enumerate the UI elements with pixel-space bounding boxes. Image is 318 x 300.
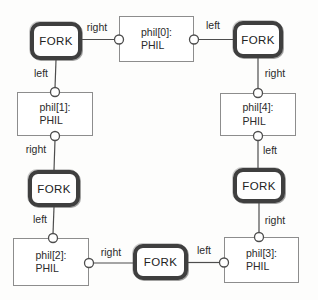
edge-label-tl-fork-to-phil0: right (87, 21, 107, 33)
edge-label-ml-fork-to-phil2: left (33, 213, 47, 225)
phil-instance-name: phil[1]: (40, 101, 71, 114)
fork-node-mid-left: FORK (28, 170, 80, 207)
edge-label-tl-fork-to-phil1: left (34, 67, 48, 79)
phil-process-type: PHIL (141, 39, 172, 52)
phil-instance-name: phil[4]: (243, 101, 274, 114)
phil-process-type: PHIL (246, 260, 277, 273)
fork-node-bottom: FORK (133, 244, 188, 280)
fork-node-label: FORK (241, 34, 275, 46)
edge-label-mr-fork-to-phil3: right (265, 214, 285, 226)
phil-node-4: phil[4]: PHIL (220, 93, 296, 136)
phil-process-type: PHIL (40, 114, 71, 127)
edge-label-phil4-to-mr-fork: left (263, 144, 277, 156)
phil-node-2: phil[2]: PHIL (13, 238, 89, 286)
phil-process-type: PHIL (36, 262, 67, 275)
edge-label-phil0-to-tr-fork: left (206, 19, 220, 31)
edge-label-phil1-to-ml-fork: right (26, 143, 46, 155)
fork-node-label: FORK (242, 180, 276, 192)
phil-instance-name: phil[3]: (246, 247, 277, 260)
connector-line (54, 140, 55, 170)
fork-node-top-left: FORK (30, 22, 82, 60)
fork-node-label: FORK (37, 183, 71, 195)
phil-node-1: phil[1]: PHIL (17, 92, 93, 136)
fork-node-label: FORK (144, 256, 178, 268)
phil-instance-name: phil[0]: (141, 26, 172, 39)
phil-node-0: phil[0]: PHIL (119, 16, 194, 62)
phil-process-type: PHIL (243, 115, 274, 128)
connector-line (53, 207, 54, 234)
fork-node-mid-right: FORK (233, 168, 285, 203)
structure-diagram: FORK FORK FORK FORK FORK phil[0]: PHIL p… (0, 0, 318, 300)
phil-node-3: phil[3]: PHIL (224, 237, 299, 283)
edge-label-b-fork-to-phil3: left (197, 244, 211, 256)
fork-node-label: FORK (39, 35, 73, 47)
connector-line (55, 60, 56, 88)
edge-label-tr-fork-to-phil4: right (265, 67, 285, 79)
phil-instance-name: phil[2]: (36, 249, 67, 262)
fork-node-top-right: FORK (233, 21, 283, 58)
edge-label-phil2-to-b-fork: right (101, 246, 121, 258)
